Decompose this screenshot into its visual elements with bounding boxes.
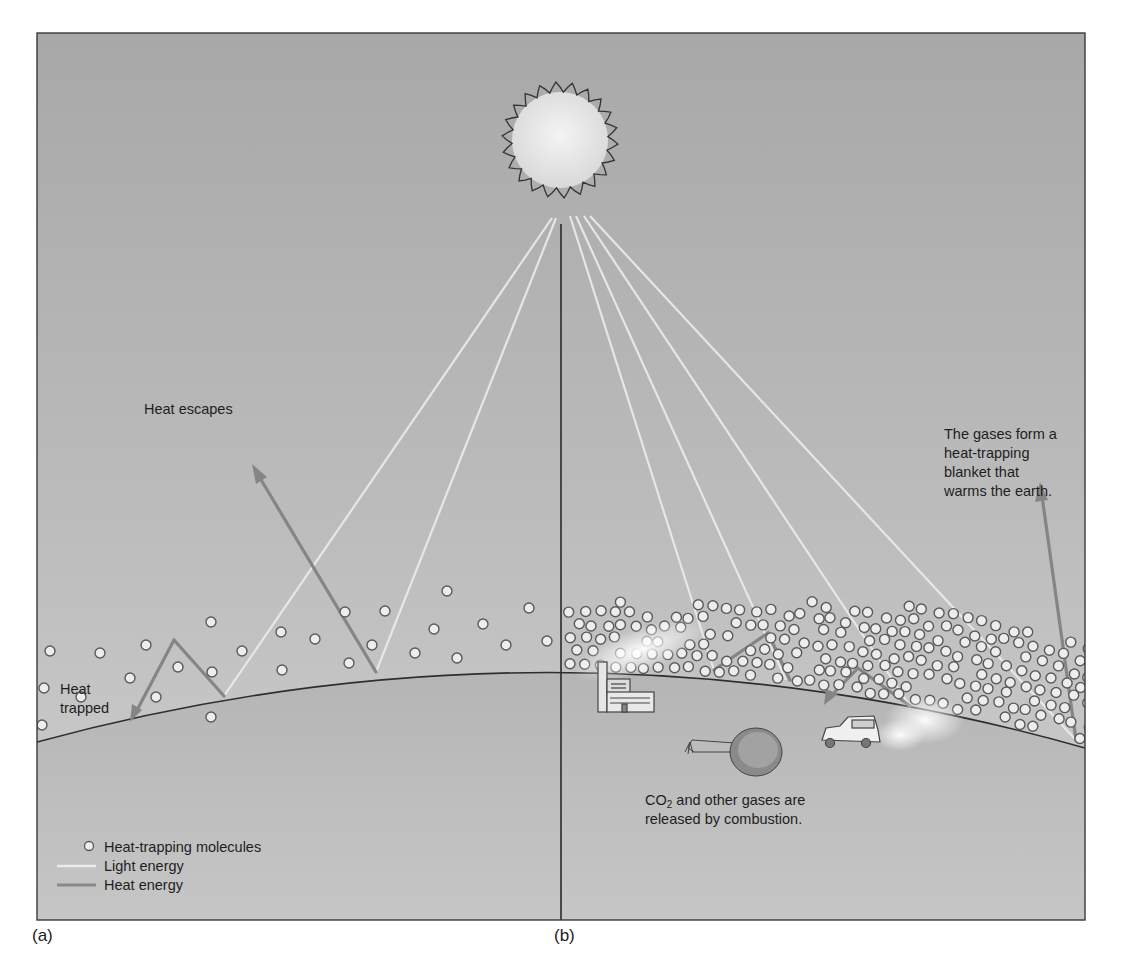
legend-label-light: Light energy bbox=[104, 857, 184, 875]
label-heat-escapes: Heat escapes bbox=[144, 400, 233, 418]
legend-molecule-icon bbox=[85, 842, 94, 851]
legend-label-heat: Heat energy bbox=[104, 876, 183, 894]
label-heat-trapped-1: Heat bbox=[60, 680, 91, 698]
label-blanket-4: warms the earth. bbox=[944, 482, 1052, 500]
label-blanket-2: heat-trapping bbox=[944, 444, 1029, 462]
label-heat-trapped-2: trapped bbox=[60, 699, 109, 717]
label-blanket-1: The gases form a bbox=[944, 425, 1057, 443]
panel-label-a: (a) bbox=[32, 926, 53, 946]
greenhouse-effect-diagram: Heat escapes Heat trapped The gases form… bbox=[0, 0, 1121, 976]
label-blanket-3: blanket that bbox=[944, 463, 1019, 481]
label-combustion-2: released by combustion. bbox=[645, 810, 802, 828]
panel-label-b: (b) bbox=[554, 926, 575, 946]
legend-label-molecules: Heat-trapping molecules bbox=[104, 838, 261, 856]
diagram-frame bbox=[37, 33, 1094, 920]
